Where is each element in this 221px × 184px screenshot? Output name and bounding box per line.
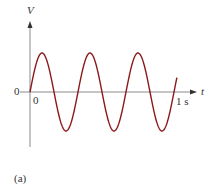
- y-axis-label: V: [27, 5, 34, 16]
- x-axis-label: t: [201, 86, 204, 97]
- origin-y-label: 0: [14, 86, 20, 97]
- figure-caption: (a): [14, 173, 26, 184]
- x-axis-arrow-icon: [190, 90, 197, 95]
- end-time-label: 1 s: [176, 96, 189, 107]
- sine-wave-plot: [0, 0, 221, 184]
- y-axis-arrow-icon: [28, 21, 33, 28]
- origin-x-label: 0: [33, 95, 39, 106]
